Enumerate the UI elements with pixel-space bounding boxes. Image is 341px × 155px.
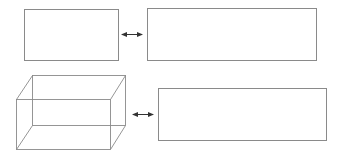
flat-rectangle-small bbox=[25, 10, 119, 61]
flat-rectangle-large bbox=[148, 9, 317, 61]
box-edge-top-left bbox=[17, 76, 33, 100]
box-back-face bbox=[33, 76, 126, 126]
wireframe-box bbox=[17, 76, 126, 150]
box-edge-top-right bbox=[111, 76, 126, 100]
box-edge-bottom-right bbox=[111, 126, 126, 150]
box-front-face bbox=[17, 100, 111, 150]
flat-rectangle-bottom bbox=[159, 89, 327, 141]
diagram-canvas bbox=[0, 0, 341, 155]
row-1 bbox=[25, 9, 317, 61]
row-2 bbox=[17, 76, 327, 150]
box-edge-bottom-left bbox=[17, 126, 33, 150]
